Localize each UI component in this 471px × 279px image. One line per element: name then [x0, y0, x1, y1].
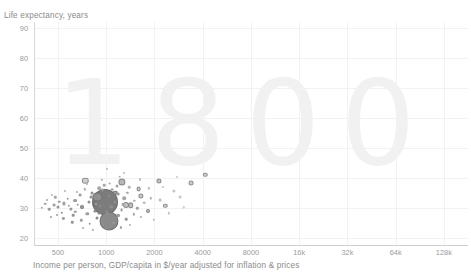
bubble-datapoint[interactable]: [122, 203, 125, 206]
bubble-datapoint[interactable]: [71, 221, 73, 223]
bubble-datapoint[interactable]: [179, 196, 182, 199]
bubble-datapoint[interactable]: [76, 191, 78, 193]
bubble-datapoint[interactable]: [143, 201, 146, 204]
bubble-datapoint[interactable]: [73, 199, 77, 203]
bubble-datapoint[interactable]: [139, 178, 141, 180]
bubble-datapoint[interactable]: [114, 200, 117, 203]
bubble-datapoint[interactable]: [112, 221, 115, 224]
gridline-vertical: [396, 22, 397, 245]
bubble-datapoint[interactable]: [52, 203, 55, 206]
y-axis-line: [34, 22, 35, 245]
bubble-datapoint[interactable]: [103, 184, 106, 187]
bubble-datapoint[interactable]: [122, 196, 126, 200]
bubble-datapoint[interactable]: [132, 213, 134, 215]
bubble-datapoint[interactable]: [80, 205, 84, 209]
bubble-datapoint[interactable]: [156, 179, 161, 184]
bubble-datapoint[interactable]: [87, 201, 90, 204]
bubble-datapoint[interactable]: [108, 182, 111, 185]
x-tick-16k: 16k: [293, 248, 305, 257]
bubble-datapoint[interactable]: [129, 224, 131, 226]
bubble-datapoint[interactable]: [167, 212, 169, 214]
bubble-datapoint[interactable]: [77, 203, 80, 206]
bubble-chart: Life expectancy, years 1800 203040506070…: [0, 0, 471, 279]
x-tick-128k: 128k: [436, 248, 452, 257]
bubble-datapoint[interactable]: [120, 226, 122, 228]
y-tick-20: 20: [8, 233, 28, 242]
bubble-datapoint[interactable]: [89, 195, 92, 198]
y-tick-30: 30: [8, 203, 28, 212]
bubble-datapoint[interactable]: [159, 199, 162, 202]
bubble-datapoint[interactable]: [79, 194, 82, 197]
bubble-datapoint[interactable]: [50, 215, 52, 217]
bubble-datapoint[interactable]: [126, 191, 128, 193]
bubble-datapoint[interactable]: [74, 211, 76, 213]
bubble-datapoint[interactable]: [125, 218, 128, 221]
bubble-datapoint[interactable]: [44, 202, 47, 205]
bubble-datapoint[interactable]: [61, 212, 63, 214]
bubble-datapoint[interactable]: [62, 202, 65, 205]
bubble-datapoint[interactable]: [92, 229, 94, 231]
bubble-datapoint[interactable]: [189, 180, 194, 185]
bubble-datapoint[interactable]: [116, 214, 120, 218]
bubble-datapoint[interactable]: [150, 197, 152, 199]
x-tick-8000: 8000: [243, 248, 259, 257]
bubble-datapoint[interactable]: [51, 194, 53, 196]
bubble-datapoint[interactable]: [96, 216, 99, 219]
bubble-datapoint[interactable]: [86, 183, 88, 185]
x-tick-32k: 32k: [341, 248, 353, 257]
bubble-datapoint[interactable]: [146, 209, 150, 213]
bubble-datapoint[interactable]: [115, 185, 118, 188]
bubble-datapoint[interactable]: [91, 192, 94, 195]
bubble-datapoint[interactable]: [118, 178, 125, 185]
x-tick-4000: 4000: [194, 248, 210, 257]
bubble-datapoint[interactable]: [85, 212, 88, 215]
bubble-datapoint[interactable]: [48, 208, 51, 211]
bubble-datapoint[interactable]: [128, 203, 134, 209]
bubble-datapoint[interactable]: [172, 190, 175, 193]
x-axis-title: Income per person, GDP/capita in $/year …: [33, 261, 299, 270]
bubble-datapoint[interactable]: [119, 175, 122, 178]
bubble-datapoint[interactable]: [148, 187, 150, 189]
bubble-datapoint[interactable]: [138, 194, 143, 199]
y-tick-50: 50: [8, 143, 28, 152]
bubble-datapoint[interactable]: [56, 214, 58, 216]
bubble-datapoint[interactable]: [82, 227, 84, 229]
bubble-datapoint[interactable]: [99, 204, 102, 207]
bubble-datapoint[interactable]: [106, 168, 108, 170]
bubble-datapoint[interactable]: [100, 179, 102, 181]
bubble-datapoint[interactable]: [123, 172, 125, 174]
x-tick-500: 500: [52, 248, 64, 257]
bubble-datapoint[interactable]: [62, 217, 64, 219]
y-tick-80: 80: [8, 53, 28, 62]
bubble-datapoint[interactable]: [117, 192, 120, 195]
bubble-datapoint[interactable]: [111, 188, 114, 191]
bubble-datapoint[interactable]: [101, 189, 104, 192]
bubble-datapoint[interactable]: [162, 186, 164, 188]
bubble-datapoint[interactable]: [72, 214, 75, 217]
bubble-datapoint[interactable]: [93, 209, 96, 212]
y-tick-60: 60: [8, 113, 28, 122]
bubble-datapoint[interactable]: [140, 216, 142, 218]
bubble-datapoint[interactable]: [69, 207, 72, 210]
plot-area: [34, 22, 468, 245]
bubble-datapoint[interactable]: [80, 219, 82, 221]
bubble-datapoint[interactable]: [136, 187, 141, 192]
gridline-vertical: [251, 22, 252, 245]
bubble-datapoint[interactable]: [54, 196, 56, 198]
bubble-datapoint[interactable]: [64, 190, 66, 192]
bubble-datapoint[interactable]: [203, 172, 207, 176]
bubble-datapoint[interactable]: [93, 202, 98, 207]
bubble-datapoint[interactable]: [102, 223, 105, 226]
bubble-datapoint[interactable]: [128, 186, 131, 189]
gridline-vertical: [347, 22, 348, 245]
y-tick-40: 40: [8, 173, 28, 182]
bubble-datapoint[interactable]: [57, 206, 60, 209]
bubble-datapoint[interactable]: [120, 209, 123, 212]
bubble-datapoint[interactable]: [84, 188, 86, 190]
bubble-datapoint[interactable]: [98, 212, 101, 215]
bubble-datapoint[interactable]: [133, 200, 135, 202]
bubble-datapoint[interactable]: [66, 197, 69, 200]
bubble-datapoint[interactable]: [89, 222, 92, 225]
bubble-datapoint[interactable]: [46, 199, 48, 201]
y-axis-title: Life expectancy, years: [4, 11, 88, 20]
